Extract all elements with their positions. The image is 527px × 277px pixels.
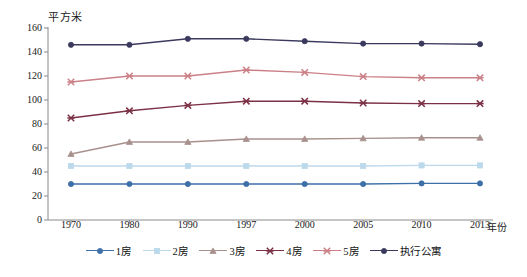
legend-item-3[interactable]: 3房 bbox=[199, 243, 245, 258]
series-line-1 bbox=[68, 181, 482, 187]
series-line-3 bbox=[68, 135, 483, 157]
series-line-2 bbox=[68, 163, 482, 169]
series-line-5 bbox=[67, 67, 483, 85]
legend-marker-icon bbox=[86, 245, 114, 257]
legend-marker-icon bbox=[256, 245, 284, 257]
legend-label: 执行公寓 bbox=[400, 243, 441, 258]
x-axis-ticks bbox=[71, 220, 480, 224]
legend-label: 3房 bbox=[229, 243, 245, 258]
legend-label: 2房 bbox=[173, 243, 189, 258]
plot-area bbox=[0, 0, 527, 277]
legend-marker-icon bbox=[313, 245, 341, 257]
line-chart: 平方米 年份 020406080100120140160 19701980199… bbox=[0, 0, 527, 277]
legend-marker-icon bbox=[370, 245, 398, 257]
legend-label: 1房 bbox=[116, 243, 132, 258]
legend-item-4[interactable]: 4房 bbox=[256, 243, 302, 258]
legend-marker-icon bbox=[143, 245, 171, 257]
y-axis-ticks bbox=[44, 28, 48, 220]
series-line-6 bbox=[68, 36, 482, 47]
legend-item-2[interactable]: 2房 bbox=[143, 243, 189, 258]
legend-item-1[interactable]: 1房 bbox=[86, 243, 132, 258]
series-line-4 bbox=[67, 98, 483, 121]
legend-item-6[interactable]: 执行公寓 bbox=[370, 243, 441, 258]
legend-item-5[interactable]: 5房 bbox=[313, 243, 359, 258]
chart-legend: 1房2房3房4房5房执行公寓 bbox=[0, 243, 527, 258]
legend-marker-icon bbox=[199, 245, 227, 257]
chart-axes bbox=[48, 27, 493, 220]
legend-label: 4房 bbox=[286, 243, 302, 258]
legend-label: 5房 bbox=[343, 243, 359, 258]
